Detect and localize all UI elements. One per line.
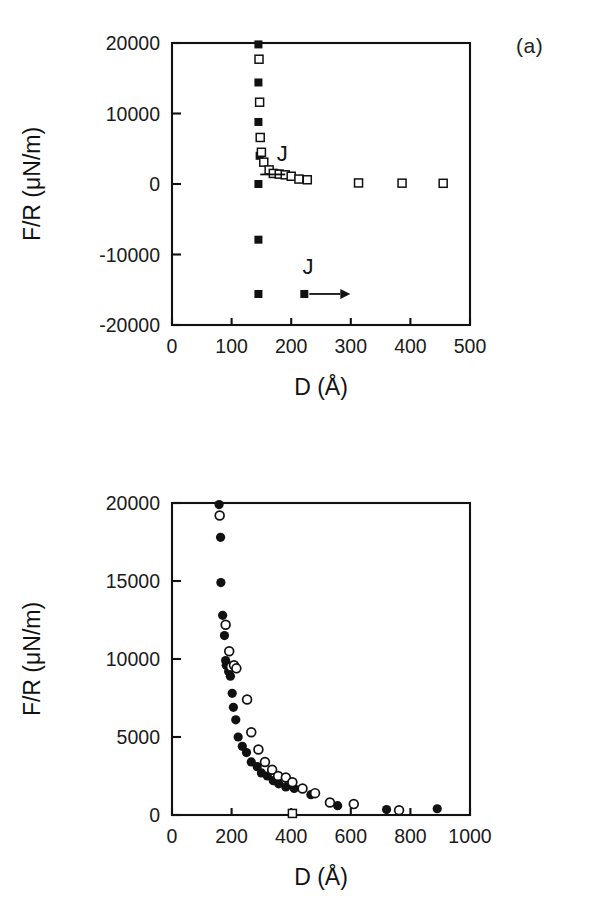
data-point-open-circle (247, 728, 256, 737)
y-tick-label: 0 (149, 173, 160, 195)
data-point-filled-circle (220, 631, 229, 640)
data-point-filled-circle (234, 732, 243, 741)
data-point-open-square (398, 179, 406, 187)
data-point-filled-circle (242, 748, 251, 757)
data-point-filled-square (254, 180, 262, 188)
y-tick-label: 0 (149, 804, 160, 826)
y-tick-label: 20000 (106, 32, 160, 54)
data-point-open-square (256, 133, 264, 141)
scatter-plot-b: 0200400600800100005000100001500020000D (… (0, 454, 601, 908)
annotation-label: J (302, 254, 313, 279)
data-point-open-circle (349, 800, 358, 809)
data-point-filled-circle (216, 578, 225, 587)
x-tick-label: 200 (215, 825, 248, 847)
data-point-filled-square (254, 236, 262, 244)
y-tick-label: 15000 (106, 570, 160, 592)
panel-label-a: (a) (516, 34, 543, 58)
data-point-open-square (256, 98, 264, 106)
y-tick-label: 10000 (106, 648, 160, 670)
data-point-filled-circle (433, 804, 442, 813)
x-axis-title: D (Å) (294, 863, 348, 890)
y-tick-label: 5000 (117, 726, 161, 748)
x-tick-label: 400 (275, 825, 308, 847)
x-tick-label: 100 (215, 335, 248, 357)
data-point-filled-square (254, 290, 262, 298)
data-point-filled-circle (226, 672, 235, 681)
y-tick-label: 20000 (106, 492, 160, 514)
data-point-open-square (260, 158, 268, 166)
x-tick-label: 0 (167, 825, 178, 847)
data-point-open-square (295, 175, 303, 183)
scatter-plot-a: 0100200300400500-20000-1000001000020000D… (0, 0, 601, 454)
data-point-filled-circle (228, 689, 237, 698)
data-point-open-circle (243, 695, 252, 704)
data-point-filled-circle (218, 611, 227, 620)
series-open-squares (255, 55, 447, 187)
data-point-filled-circle (229, 703, 238, 712)
x-tick-label: 600 (335, 825, 368, 847)
y-axis-title: F/R (μN/m) (19, 127, 45, 241)
data-point-open-circle (215, 511, 224, 520)
annotation-jump-label-lower: J (300, 254, 350, 299)
series-open-square-outlier (288, 809, 296, 817)
y-axis-title: F/R (μN/m) (19, 602, 45, 716)
data-point-filled-circle (382, 805, 391, 814)
data-point-open-square (255, 55, 263, 63)
data-point-open-circle (261, 758, 270, 767)
data-point-open-circle (311, 789, 320, 798)
annotation-label: J (277, 141, 288, 166)
data-point-open-circle (232, 664, 241, 673)
x-tick-label: 300 (335, 335, 368, 357)
data-point-open-circle (221, 620, 230, 629)
series-filled-circles (214, 500, 441, 814)
x-tick-label: 800 (394, 825, 427, 847)
data-point-open-square (287, 172, 295, 180)
data-point-filled-circle (214, 500, 223, 509)
data-point-open-square (355, 179, 363, 187)
y-tick-label: 10000 (106, 103, 160, 125)
series-open-circles (215, 511, 403, 815)
data-point-filled-square (254, 118, 262, 126)
plot-frame (172, 43, 470, 325)
data-point-open-circle (254, 745, 263, 754)
figure-panel-a: 0100200300400500-20000-1000001000020000D… (0, 0, 601, 454)
x-tick-label: 0 (167, 335, 178, 357)
data-point-filled-square (254, 40, 262, 48)
x-tick-label: 1000 (448, 825, 492, 847)
data-point-filled-circle (231, 715, 240, 724)
y-tick-label: -20000 (99, 314, 160, 336)
data-point-open-circle (298, 784, 307, 793)
x-tick-label: 200 (275, 335, 308, 357)
x-tick-label: 400 (394, 335, 427, 357)
data-point-open-circle (395, 806, 404, 815)
y-tick-label: -10000 (99, 244, 160, 266)
data-point-open-circle (225, 647, 234, 656)
data-point-open-circle (326, 798, 335, 807)
data-point-open-square (303, 176, 311, 184)
x-axis-title: D (Å) (294, 373, 348, 400)
annotation-marker-filled-square (300, 290, 308, 298)
plot-frame (172, 503, 470, 815)
annotation-arrow-head (340, 289, 350, 299)
data-point-open-circle (288, 778, 297, 787)
data-point-open-square (439, 179, 447, 187)
data-point-filled-circle (216, 533, 225, 542)
data-point-filled-square (254, 78, 262, 86)
figure-panel-b: 0200400600800100005000100001500020000D (… (0, 454, 601, 908)
data-point-open-square (288, 809, 296, 817)
data-point-open-square (257, 148, 265, 156)
x-tick-label: 500 (454, 335, 487, 357)
